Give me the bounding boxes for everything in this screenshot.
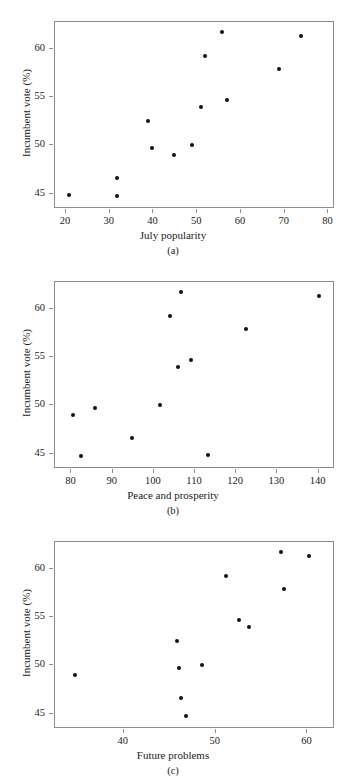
x-tick [215,729,216,733]
plot-frame-c [54,541,334,728]
y-tick-label: 60 [15,562,45,573]
x-tick-label: 40 [103,735,143,746]
x-tick [240,209,241,213]
y-tick-label: 45 [15,187,45,198]
data-point [225,98,229,102]
data-point [224,574,228,578]
x-tick-label: 60 [220,215,260,226]
x-tick-label: 100 [133,475,173,486]
x-tick-label: 90 [92,475,132,486]
x-tick [152,209,153,213]
x-tick [196,209,197,213]
y-tick-label: 55 [15,610,45,621]
x-tick [276,469,277,473]
x-tick-label: 70 [264,215,304,226]
y-tick-label: 45 [15,447,45,458]
x-tick [70,469,71,473]
panel-caption-a: (a) [0,245,346,256]
y-tick [49,568,53,569]
x-tick-label: 110 [174,475,214,486]
x-tick [123,729,124,733]
x-tick [327,209,328,213]
data-point [247,625,251,629]
data-point [179,290,183,294]
x-tick-label: 140 [298,475,338,486]
x-tick-label: 120 [215,475,255,486]
plot-frame-a [54,21,334,208]
panel-caption-c: (c) [0,765,346,776]
y-tick [49,308,53,309]
y-tick-label: 60 [15,42,45,53]
x-tick-label: 50 [176,215,216,226]
x-tick-label: 30 [89,215,129,226]
y-tick [49,713,53,714]
x-tick-label: 50 [195,735,235,746]
x-tick-label: 80 [307,215,346,226]
x-tick [109,209,110,213]
x-tick [235,469,236,473]
x-tick-label: 130 [256,475,296,486]
x-axis-title-c: Future problems [0,749,346,761]
data-point [203,54,207,58]
scatter-panel-b: Incumbent vote (%) Peace and prosperity … [0,260,346,520]
x-tick [153,469,154,473]
y-tick-label: 55 [15,90,45,101]
y-tick-label: 50 [15,398,45,409]
y-tick [49,664,53,665]
x-tick-label: 80 [50,475,90,486]
data-point [168,314,172,318]
y-tick [49,193,53,194]
panel-caption-b: (b) [0,505,346,516]
scatter-panel-a: Incumbent vote (%) July popularity (a) 2… [0,0,346,260]
y-tick [49,48,53,49]
x-tick [306,729,307,733]
plot-frame-b [54,281,334,468]
y-tick-label: 60 [15,302,45,313]
x-tick [194,469,195,473]
y-tick-label: 50 [15,138,45,149]
x-tick [65,209,66,213]
y-tick-label: 45 [15,707,45,718]
y-tick [49,616,53,617]
x-tick [284,209,285,213]
x-axis-title-b: Peace and prosperity [0,489,346,501]
x-tick [318,469,319,473]
y-tick [49,144,53,145]
x-tick-label: 60 [286,735,326,746]
data-point [71,413,75,417]
y-tick-label: 50 [15,658,45,669]
y-tick [49,453,53,454]
x-axis-title-a: July popularity [0,229,346,241]
y-tick [49,404,53,405]
y-tick-label: 55 [15,350,45,361]
y-tick [49,96,53,97]
data-point [279,550,283,554]
x-tick-label: 20 [45,215,85,226]
scatter-panel-c: Incumbent vote (%) Future problems (c) 4… [0,520,346,780]
x-tick [112,469,113,473]
x-tick-label: 40 [132,215,172,226]
data-point [179,696,183,700]
data-point [199,105,203,109]
y-tick [49,356,53,357]
